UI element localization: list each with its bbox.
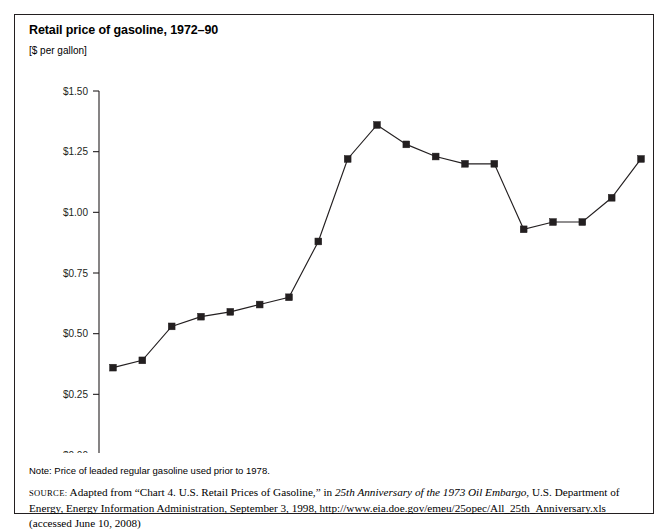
data-point-marker <box>608 194 615 201</box>
source-label: SOURCE: <box>29 488 67 498</box>
series-markers <box>110 122 645 371</box>
data-point-marker <box>315 238 322 245</box>
data-point-marker <box>139 357 146 364</box>
data-point-marker <box>638 156 645 163</box>
data-point-marker <box>432 153 439 160</box>
chart-source: SOURCE: Adapted from “Chart 4. U.S. Reta… <box>29 485 639 531</box>
data-point-marker <box>168 323 175 330</box>
units-label: [$ per gallon] <box>29 45 87 56</box>
data-point-marker <box>462 160 469 167</box>
data-point-marker <box>198 313 205 320</box>
line-chart: $0.00$0.25$0.50$0.75$1.00$1.25$1.50 1972… <box>15 63 652 453</box>
y-tick-label: $1.25 <box>63 146 88 157</box>
chart-note: Note: Price of leaded regular gasoline u… <box>29 465 270 476</box>
data-point-marker <box>256 301 263 308</box>
data-point-marker <box>403 141 410 148</box>
chart-plot-area: $0.00$0.25$0.50$0.75$1.00$1.25$1.50 1972… <box>15 63 652 453</box>
data-point-marker <box>550 219 557 226</box>
source-text-italic: 25th Anniversary of the 1973 Oil Embargo <box>335 486 526 498</box>
data-point-marker <box>374 122 381 129</box>
y-tick-label: $0.75 <box>63 268 88 279</box>
data-point-marker <box>227 308 234 315</box>
page-title: Retail price of gasoline, 1972–90 <box>29 23 218 37</box>
source-text-part1: Adapted from “Chart 4. U.S. Retail Price… <box>67 486 335 498</box>
data-point-marker <box>579 219 586 226</box>
figure-frame: Retail price of gasoline, 1972–90 [$ per… <box>14 14 654 514</box>
series-line-gasoline-price <box>113 125 641 368</box>
data-point-marker <box>286 294 293 301</box>
data-point-marker <box>110 364 117 371</box>
y-axis: $0.00$0.25$0.50$0.75$1.00$1.25$1.50 <box>63 86 99 454</box>
data-point-marker <box>344 156 351 163</box>
data-point-marker <box>520 226 527 233</box>
y-tick-label: $1.00 <box>63 207 88 218</box>
y-tick-label: $0.25 <box>63 389 88 400</box>
y-tick-label: $1.50 <box>63 86 88 97</box>
y-tick-label: $0.00 <box>63 450 88 454</box>
data-point-marker <box>491 160 498 167</box>
y-tick-label: $0.50 <box>63 328 88 339</box>
